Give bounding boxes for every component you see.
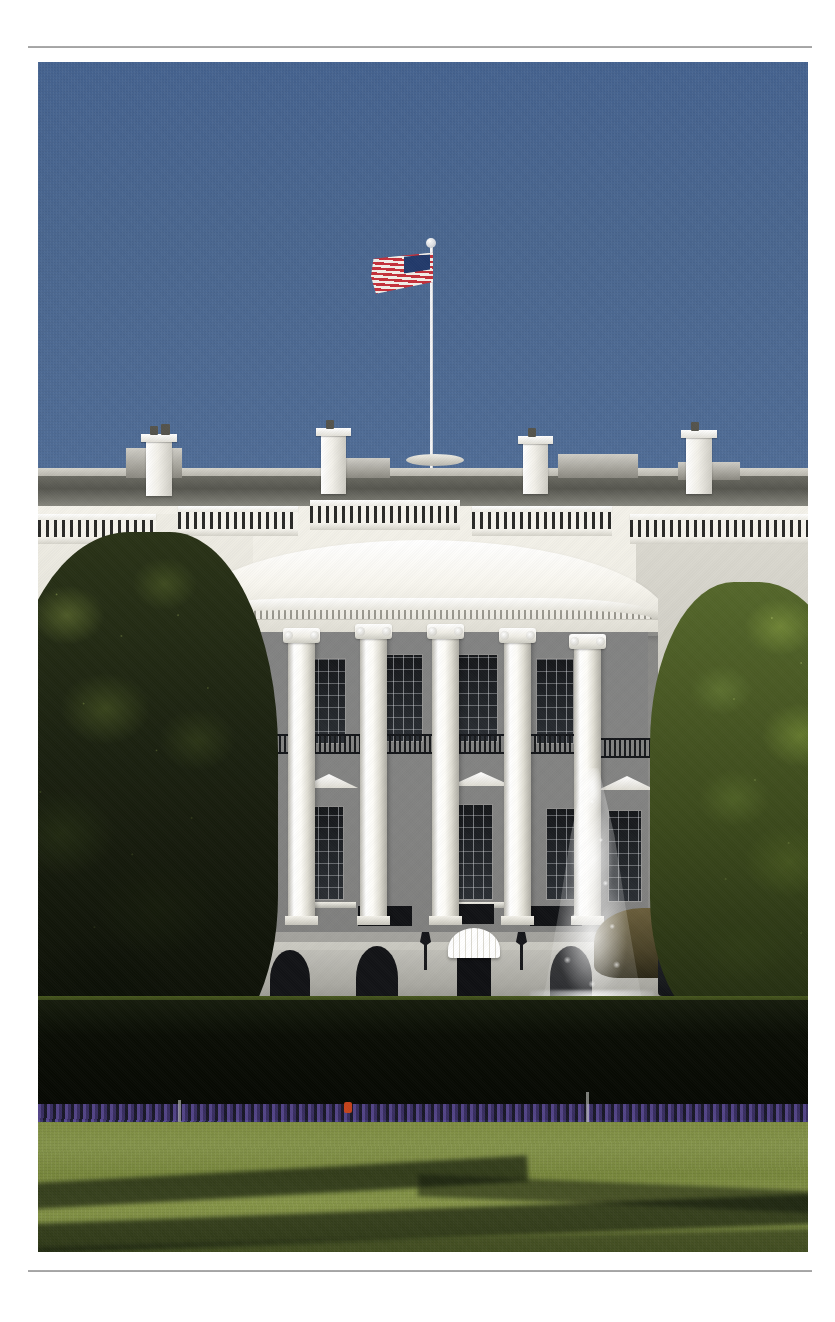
roof-equipment-right: [558, 454, 638, 478]
balusters: [630, 520, 808, 537]
balustrade-right-center: [472, 506, 612, 536]
chimney-left: [146, 440, 172, 496]
portico-column-4: [432, 634, 459, 920]
chimney-pot-left-2: [161, 424, 170, 435]
lamp-post-left: [424, 944, 427, 970]
red-flower-accent: [344, 1102, 352, 1113]
balustrade-rail-bottom: [472, 529, 612, 536]
chimney-cap-right: [518, 436, 553, 444]
column-capital-2: [283, 628, 320, 643]
window-first-floor-3: [453, 804, 493, 900]
chimney-pot-center: [326, 420, 334, 429]
column-base-4: [429, 916, 462, 925]
white-house-photograph: [38, 62, 808, 1252]
window-second-floor-5: [536, 658, 574, 744]
window-second-floor-3: [383, 654, 423, 742]
portico-column-5: [504, 638, 531, 920]
lamp-post-right: [520, 944, 523, 970]
boxwood-hedge: [38, 1000, 808, 1120]
top-horizontal-rule: [28, 46, 812, 48]
column-capital-3: [355, 624, 392, 639]
balusters: [178, 512, 298, 529]
window-panes: [384, 655, 422, 741]
column-capital-6: [569, 634, 606, 649]
chimney-pot-right: [528, 428, 536, 437]
tree-right-foliage-highlights: [650, 582, 808, 1032]
flagpole-finial-icon: [426, 238, 436, 248]
column-base-3: [357, 916, 390, 925]
balustrade-rail-bottom: [310, 523, 460, 530]
chimney-center: [321, 434, 346, 494]
window-panes: [459, 655, 497, 741]
column-capital-5: [499, 628, 536, 643]
balusters: [310, 506, 460, 523]
chimney-right: [523, 442, 548, 494]
column-base-5: [501, 916, 534, 925]
chimney-far-right: [686, 436, 712, 494]
roof-vent: [406, 454, 464, 466]
portico-column-2: [288, 638, 315, 920]
balustrade-rail-bottom: [178, 529, 298, 536]
chimney-pot-left: [150, 426, 158, 435]
chimney-cap-left: [141, 434, 177, 442]
balustrade-left-center: [178, 506, 298, 536]
tree-left-foliage-highlights: [38, 532, 278, 1052]
column-capital-4: [427, 624, 464, 639]
balustrade-center: [310, 500, 460, 530]
chimney-cap-center: [316, 428, 351, 436]
window-second-floor-4: [458, 654, 498, 742]
balusters: [472, 512, 612, 529]
window-panes: [537, 659, 573, 743]
window-panes: [454, 805, 492, 899]
chimney-cap-far-right: [681, 430, 717, 438]
balcony-railing-right: [594, 738, 654, 758]
column-base-2: [285, 916, 318, 925]
portico-roof: [188, 540, 658, 636]
document-page: [0, 0, 835, 1322]
chimney-pot-far-right: [691, 422, 699, 431]
bottom-horizontal-rule: [28, 1270, 812, 1272]
portico-dentil-molding: [194, 610, 652, 619]
portico-column-3: [360, 634, 387, 920]
